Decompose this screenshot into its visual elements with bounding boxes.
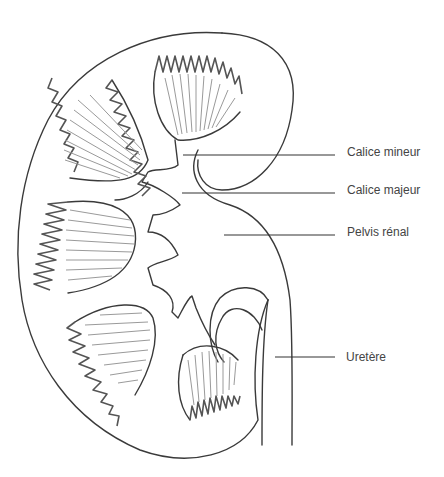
- label-pelvis-renal: Pelvis rénal: [347, 225, 409, 239]
- renal-pyramid-top: [154, 56, 242, 140]
- renal-pelvis: [142, 140, 215, 345]
- renal-pyramid-middle-left: [34, 201, 136, 293]
- label-uretere: Uretère: [346, 350, 386, 364]
- ureter-inner-wall: [262, 300, 268, 445]
- lower-sinus-curve-inner: [216, 309, 262, 362]
- renal-pyramid-bottom: [179, 346, 240, 420]
- renal-pyramid-lower-left: [67, 305, 155, 426]
- label-calice-majeur: Calice majeur: [347, 183, 420, 197]
- kidney-outline-upper-right: [198, 33, 294, 190]
- label-calice-mineur: Calice mineur: [347, 145, 420, 159]
- calice-connector-left: [115, 182, 148, 200]
- renal-sinus-curve: [194, 150, 292, 445]
